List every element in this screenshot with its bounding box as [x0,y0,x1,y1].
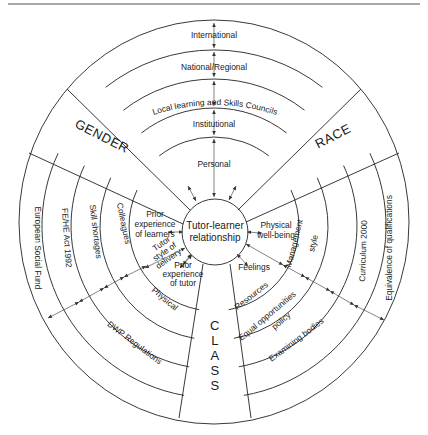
sector-label-race: RACE [313,121,354,152]
label-prior-experience-learners-3: of learners [135,229,175,239]
class-letter: L [211,333,219,348]
class-letter: S [210,363,219,378]
ring-label-management-style-2: style [306,233,320,252]
ring-label-national: National/Regional [181,62,247,72]
ring-label-fehe-act: FE/HE Act 1992 [60,208,74,268]
ring-label-international: International [191,30,237,40]
ring-label-colleagues: Colleagues [115,202,133,245]
class-letter: C [210,318,220,333]
tutor-learner-diagram: Tutor-learner relationship International… [0,0,428,435]
arrow-top-2-head-0 [212,81,216,85]
ring-label-resources: Resources [232,279,270,312]
center-label-line1: Tutor-learner [186,220,244,231]
arrow-top-1-head-1 [212,73,216,77]
ring-label-physical: Physical [150,285,180,313]
ring-label-personal: Personal [197,159,230,169]
arrow-top-4-head-0 [212,139,216,143]
arrow-right-3-head-1 [350,301,354,305]
sector-label-class: CLASS [210,318,220,393]
arrow-top-3-head-1 [212,131,216,135]
ring-label-institutional: Institutional [193,119,236,129]
arrow-top-0-head-1 [212,44,216,48]
ring-label-local-lsc: Local learning and Skills Councils [151,97,279,117]
arrow-top-1-head-0 [212,52,216,56]
ring-label-dwp-regulations: DWP Regulations [105,319,164,367]
arrow-top-0-head-0 [212,23,216,27]
label-prior-experience-learners-1: Prior [146,209,164,219]
ring-label-equivalence-qualifications: Equivalence of qualifications [384,195,394,301]
sector-label-gender: GENDER [73,116,132,156]
arrow-top-3-head-0 [212,110,216,114]
ring-label-european-social-fund: European Social Fund [33,207,43,290]
class-letter: S [210,378,219,393]
arrow-right-4 [354,305,384,320]
arrow-left-1 [48,302,79,318]
left-ring-2 [100,178,194,338]
center-label-line2: relationship [189,232,241,243]
race-wedge-lower [246,153,399,222]
ring-label-skill-shortages: Skill shortages [88,204,105,259]
class-letter: A [210,348,219,363]
arrow-right-3 [330,291,354,305]
arrow-right-3-head-0 [330,291,334,295]
ring-label-curriculum-2000: Curriculum 2000 [357,220,369,282]
label-physical-wellbeing-1: Physical [260,220,291,230]
arrow-top-4-head-1 [212,193,216,197]
label-prior-experience-tutor-3: of tutor [170,278,196,288]
label-feelings: Feelings [238,262,270,272]
label-physical-wellbeing-2: well-being [256,230,295,240]
label-prior-experience-learners-2: experience [135,219,176,229]
